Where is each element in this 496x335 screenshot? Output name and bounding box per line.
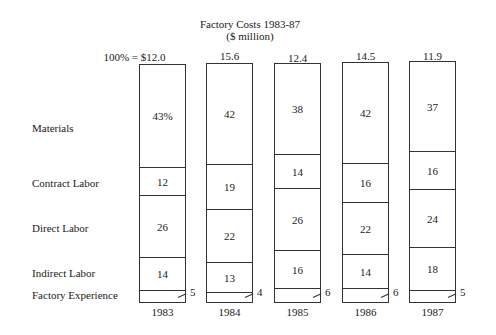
segment-contract-labor: 16: [343, 163, 388, 202]
year-label: 1983: [138, 306, 188, 318]
segment-indirect-labor: 16: [275, 250, 320, 288]
segment-factory-experience: [343, 288, 388, 302]
segment-materials: 37: [410, 62, 455, 151]
year-label: 1984: [205, 306, 255, 318]
segment-contract-labor: 16: [410, 151, 455, 189]
stacked-bar-1987: 37162418: [409, 61, 456, 303]
segment-factory-experience: [275, 288, 320, 302]
stacked-bar-1985: 38142616: [274, 63, 321, 303]
segment-direct-labor: 24: [410, 189, 455, 247]
segment-indirect-labor: 14: [140, 257, 185, 290]
segment-materials: 42: [207, 64, 252, 164]
segment-indirect-labor: 18: [410, 247, 455, 290]
row-label-factory-experience: Factory Experience: [32, 289, 118, 301]
segment-direct-labor: 22: [207, 209, 252, 262]
year-label: 1987: [408, 306, 458, 318]
callout-value: 6: [393, 286, 399, 298]
segment-contract-labor: 19: [207, 164, 252, 209]
chart-subtitle: ($ million): [2, 30, 496, 43]
callout-value: 4: [257, 286, 263, 298]
stacked-bar-1986: 42162214: [342, 62, 389, 303]
segment-materials: 38: [275, 64, 320, 154]
stacked-bar-1984: 42192213: [206, 63, 253, 303]
segment-contract-labor: 14: [275, 154, 320, 188]
row-label-direct-labor: Direct Labor: [32, 222, 89, 234]
segment-direct-labor: 26: [140, 195, 185, 257]
stacked-bar-1983: 43%122614: [139, 64, 186, 303]
segment-indirect-labor: 14: [343, 254, 388, 288]
callout-value: 5: [190, 286, 196, 298]
row-label-contract-labor: Contract Labor: [32, 177, 99, 189]
row-label-materials: Materials: [32, 122, 74, 134]
segment-materials: 43%: [140, 65, 185, 167]
segment-direct-labor: 26: [275, 188, 320, 250]
callout-value: 6: [325, 286, 331, 298]
segment-indirect-labor: 13: [207, 262, 252, 292]
row-label-indirect-labor: Indirect Labor: [32, 267, 95, 279]
year-label: 1985: [273, 306, 323, 318]
bar-total-label: 100% = $12.0: [95, 51, 175, 63]
segment-materials: 42: [343, 63, 388, 163]
segment-contract-labor: 12: [140, 167, 185, 195]
year-label: 1986: [341, 306, 391, 318]
segment-direct-labor: 22: [343, 202, 388, 254]
callout-value: 5: [460, 286, 466, 298]
